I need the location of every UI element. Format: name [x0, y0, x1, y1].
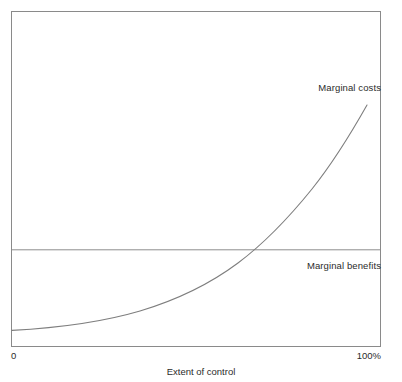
- x-axis-tick-max: 100%: [343, 351, 381, 361]
- annotation-marginal-costs: Marginal costs: [318, 83, 381, 93]
- plot-frame: [11, 11, 381, 347]
- x-axis-tick-min: 0: [11, 351, 16, 361]
- annotation-marginal-benefits: Marginal benefits: [307, 261, 381, 271]
- chart-figure: Marginal costs Marginal benefits 0 100% …: [0, 0, 402, 382]
- x-axis-title: Extent of control: [0, 367, 402, 377]
